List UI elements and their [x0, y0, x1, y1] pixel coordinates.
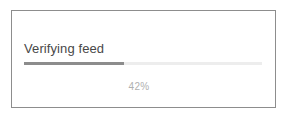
progress-bar-fill: [24, 62, 124, 65]
progress-card: Verifying feed 42%: [11, 10, 276, 108]
screen-root: Verifying feed 42%: [0, 0, 283, 116]
progress-percent-label: 42%: [119, 81, 159, 93]
status-label: Verifying feed: [24, 41, 263, 56]
progress-card-body: Verifying feed: [24, 41, 263, 65]
progress-bar-track: [24, 62, 262, 65]
